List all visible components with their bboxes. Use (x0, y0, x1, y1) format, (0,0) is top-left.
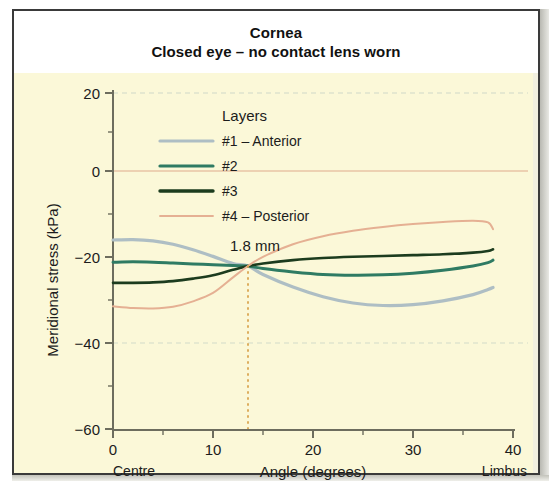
data-series-group (113, 221, 493, 309)
legend-label-3: #3 (222, 183, 238, 199)
series-line-3 (113, 249, 493, 283)
y-tick-label-4: −60 (75, 421, 100, 438)
y-tick-label-1: 0 (92, 163, 100, 180)
legend-label-1: #1 – Anterior (222, 133, 302, 149)
x-tick-label-4: 40 (505, 441, 522, 458)
legend-label-2: #2 (222, 158, 238, 174)
y-axis-major-ticks (105, 93, 113, 429)
series-line-4-posterior (113, 221, 493, 309)
y-tick-label-3: −40 (75, 335, 100, 352)
y-axis-title: Meridional stress (kPa) (44, 203, 61, 356)
crossing-annotation-label: 1.8 mm (230, 237, 280, 254)
x-axis-right-end-label: Limbus (482, 463, 527, 479)
y-tick-label-0: 20 (83, 85, 100, 102)
x-axis-title: Angle (degrees) (260, 463, 367, 480)
x-tick-label-3: 30 (405, 441, 422, 458)
x-tick-label-1: 10 (205, 441, 222, 458)
x-tick-label-2: 20 (305, 441, 322, 458)
legend-item-2: #2 (160, 158, 238, 174)
y-tick-label-2: −20 (75, 249, 100, 266)
legend-item-1: #1 – Anterior (160, 133, 302, 149)
series-line-2 (113, 260, 493, 275)
chart-plot: 20 0 −20 −40 −60 0 10 20 30 40 Angle (de… (0, 0, 559, 486)
x-axis-major-ticks (113, 430, 513, 438)
legend-item-3: #3 (160, 183, 238, 199)
x-tick-label-0: 0 (109, 441, 117, 458)
legend-title: Layers (222, 107, 267, 124)
figure-container: Cornea Closed eye – no contact lens worn (0, 0, 559, 486)
legend-item-4: #4 – Posterior (160, 208, 309, 224)
legend-label-4: #4 – Posterior (222, 208, 309, 224)
x-axis-left-end-label: Centre (113, 463, 155, 479)
